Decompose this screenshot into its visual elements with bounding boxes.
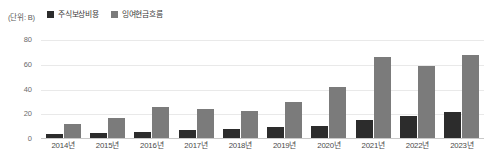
bar-free-cash-flow[interactable] [462,55,479,139]
bar-group [85,40,129,139]
bar-group [351,40,395,139]
bar-group [395,40,439,139]
bar-stock-compensation[interactable] [400,116,417,140]
bar-free-cash-flow[interactable] [285,102,302,139]
bar-free-cash-flow[interactable] [418,66,435,139]
y-axis-tick-label: 0 [28,135,32,143]
bar-group [307,40,351,139]
bar-free-cash-flow[interactable] [374,57,391,139]
x-axis-tick-label: 2019년 [262,142,306,151]
x-axis-tick-label: 2016년 [130,142,174,151]
bar-free-cash-flow[interactable] [152,107,169,139]
x-axis-tick-label: 2021년 [351,142,395,151]
legend-item-stock-compensation[interactable]: 주식보상비용 [47,11,99,19]
legend-label-stock-compensation: 주식보상비용 [58,11,99,19]
legend-label-free-cash-flow: 잉여현금흐름 [122,11,163,19]
chart-legend: 주식보상비용 잉여현금흐름 [47,11,163,19]
y-axis-tick-label: 40 [24,86,32,94]
legend-item-free-cash-flow[interactable]: 잉여현금흐름 [111,11,163,19]
bar-group [130,40,174,139]
bar-stock-compensation[interactable] [444,112,461,139]
bar-group [174,40,218,139]
x-axis-tick-label: 2023년 [440,142,484,151]
bar-stock-compensation[interactable] [356,120,373,139]
legend-swatch-free-cash-flow [111,11,118,18]
y-axis-labels: 806040200 [0,40,36,139]
bar-group [262,40,306,139]
y-axis-tick-label: 60 [24,61,32,69]
bar-free-cash-flow[interactable] [329,87,346,139]
x-axis-tick-label: 2017년 [174,142,218,151]
x-axis-tick-label: 2022년 [395,142,439,151]
unit-note: (단위: B) [8,11,35,22]
bar-groups [41,40,484,139]
bar-group [218,40,262,139]
y-axis-tick-label: 80 [24,36,32,44]
x-axis-tick-label: 2020년 [307,142,351,151]
plot-area [41,40,484,139]
bar-free-cash-flow[interactable] [64,124,81,139]
bar-free-cash-flow[interactable] [241,111,258,139]
x-axis-line [41,138,484,139]
bar-group [440,40,484,139]
legend-swatch-stock-compensation [47,11,54,18]
x-axis-tick-label: 2018년 [218,142,262,151]
x-axis-tick-label: 2014년 [41,142,85,151]
x-axis-labels: 2014년2015년2016년2017년2018년2019년2020년2021년… [41,142,484,151]
x-axis-tick-label: 2015년 [85,142,129,151]
bar-free-cash-flow[interactable] [108,118,125,139]
bar-free-cash-flow[interactable] [197,109,214,139]
y-axis-tick-label: 20 [24,111,32,119]
free-cash-flow-vs-stock-compensation-chart: (단위: B) 주식보상비용 잉여현금흐름 806040200 2014년201… [0,0,492,165]
bar-group [41,40,85,139]
